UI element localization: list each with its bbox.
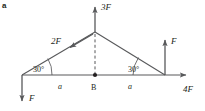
right-angle-label: 30° xyxy=(128,65,139,74)
point-b-marker xyxy=(93,73,97,77)
right-dimension-label: a xyxy=(128,82,132,91)
left-edge-force-label: 2F xyxy=(51,36,62,46)
force-diagram-figure: a 3F 2F F F 4F 30° 30° xyxy=(0,0,205,111)
diagram-canvas: 3F 2F F F 4F 30° 30° B a a xyxy=(0,0,205,111)
point-b-label: B xyxy=(91,83,96,92)
left-edge-force-arrow-2f xyxy=(70,34,93,48)
right-vertical-force-label: F xyxy=(170,36,177,46)
panel-label: a xyxy=(2,2,6,10)
left-angle-label: 30° xyxy=(33,65,44,74)
left-dimension-label: a xyxy=(58,82,62,91)
baseline-force-label: 4F xyxy=(183,84,194,94)
left-angle-arc xyxy=(48,59,52,76)
left-vertical-force-label: F xyxy=(28,93,35,103)
apex-force-label: 3F xyxy=(100,2,112,12)
